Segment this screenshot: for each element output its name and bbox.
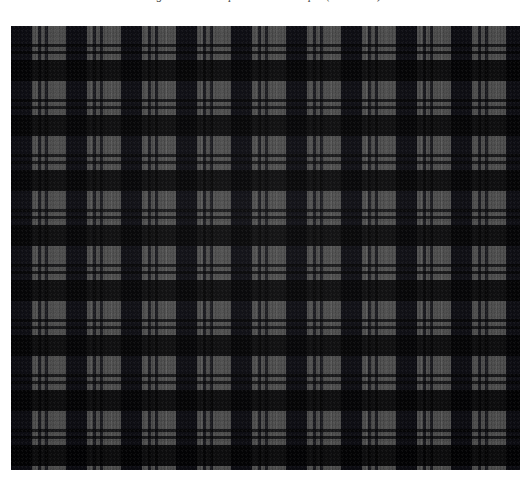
figure-caption-text: Figure 1: Tartan plaid weave sample (woo… bbox=[0, 0, 531, 2]
plaid-figure-image bbox=[11, 26, 520, 470]
plaid-yarn-speckle bbox=[11, 26, 520, 470]
figure-caption-strip: Figure 1: Tartan plaid weave sample (woo… bbox=[0, 0, 531, 22]
